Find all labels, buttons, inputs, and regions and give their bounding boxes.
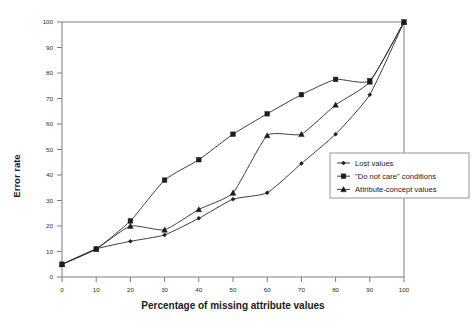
y-tick-label: 100 bbox=[43, 18, 54, 25]
x-tick-label: 90 bbox=[366, 286, 373, 293]
x-tick-label: 70 bbox=[298, 286, 305, 293]
x-axis-title: Percentage of missing attribute values bbox=[141, 300, 325, 311]
x-tick-label: 100 bbox=[399, 286, 410, 293]
data-point-marker-1 bbox=[162, 178, 167, 183]
y-tick-label: 60 bbox=[46, 120, 53, 127]
data-point-marker-legend-1 bbox=[341, 174, 346, 179]
y-tick-label: 90 bbox=[46, 44, 53, 51]
x-tick-label: 10 bbox=[93, 286, 100, 293]
data-point-marker-1 bbox=[197, 157, 202, 162]
y-tick-label: 0 bbox=[50, 273, 54, 280]
x-tick-label: 30 bbox=[161, 286, 168, 293]
y-tick-label: 40 bbox=[46, 171, 53, 178]
data-point-marker-1 bbox=[128, 219, 133, 224]
legend-label-0: Lost values bbox=[355, 159, 394, 168]
y-tick-label: 50 bbox=[46, 146, 53, 153]
y-axis-title: Error rate bbox=[11, 154, 22, 197]
data-point-marker-1 bbox=[231, 132, 236, 137]
x-tick-label: 40 bbox=[195, 286, 202, 293]
data-point-marker-1 bbox=[265, 112, 270, 117]
x-tick-label: 80 bbox=[332, 286, 339, 293]
legend-label-2: Attribute-concept values bbox=[355, 185, 437, 194]
x-tick-label: 20 bbox=[127, 286, 134, 293]
legend-label-1: "Do not care" conditions bbox=[355, 172, 436, 181]
x-tick-label: 60 bbox=[264, 286, 271, 293]
y-tick-label: 80 bbox=[46, 69, 53, 76]
chart-legend: Lost values"Do not care" conditionsAttri… bbox=[330, 153, 469, 198]
y-tick-label: 20 bbox=[46, 222, 53, 229]
y-tick-label: 30 bbox=[46, 197, 53, 204]
x-tick-label: 0 bbox=[60, 286, 64, 293]
x-tick-label: 50 bbox=[230, 286, 237, 293]
data-point-marker-1 bbox=[299, 92, 304, 97]
y-tick-label: 10 bbox=[46, 248, 53, 255]
chart-figure: 0102030405060708090100 01020304050607080… bbox=[0, 0, 474, 325]
y-tick-label: 70 bbox=[46, 95, 53, 102]
data-point-marker-1 bbox=[333, 77, 338, 82]
